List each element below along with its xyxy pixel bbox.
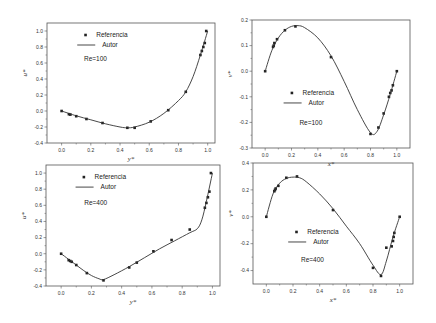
x-axis-label: y* [129, 298, 137, 306]
series-line-autor [265, 26, 397, 135]
plot-top-right-v-re100: 0.00.20.40.60.81.0-0.3-0.2-0.10.00.10.2x… [226, 17, 410, 168]
y-axis-label: u* [20, 212, 28, 220]
y-tick-label: -0.4 [33, 283, 42, 289]
legend: ReferenciaAutor [76, 173, 127, 190]
y-axis: -0.4-0.20.00.20.40.60.81.0 [34, 28, 47, 146]
y-axis: -0.4-0.20.00.20.4 [240, 160, 253, 274]
plot-frame [253, 163, 413, 284]
legend-label-referencia: Referencia [96, 31, 128, 38]
y-tick-label: 1.0 [36, 28, 43, 34]
y-tick-label: 0.0 [242, 214, 249, 220]
y-tick-label: -0.4 [240, 267, 249, 273]
y-tick-label: -0.4 [34, 140, 43, 146]
y-tick-label: 0.0 [241, 68, 248, 74]
x-tick-label: 0.6 [146, 147, 153, 153]
y-axis-label: v* [227, 210, 235, 217]
plot-bottom-left-u-re400: 0.00.20.40.60.81.0-0.4-0.20.00.20.40.60.… [20, 165, 220, 306]
x-tick-label: 0.0 [58, 290, 65, 296]
series-line-autor [62, 31, 208, 128]
series-markers-referencia [264, 25, 398, 135]
x-axis: 0.00.20.40.60.81.0 [58, 143, 211, 153]
legend-marker-icon [83, 176, 86, 179]
x-tick-label: 0.0 [263, 288, 270, 294]
x-tick-label: 0.4 [314, 152, 321, 158]
x-tick-label: 0.2 [88, 290, 95, 296]
x-tick-label: 0.8 [370, 288, 377, 294]
reynolds-annotation: Re=100 [84, 55, 107, 62]
x-tick-label: 0.6 [341, 152, 348, 158]
y-axis-label: u* [21, 69, 29, 77]
series-markers-referencia [60, 172, 212, 282]
y-tick-label: -0.3 [239, 145, 248, 151]
series-markers-referencia [265, 175, 401, 277]
x-tick-label: 0.2 [290, 288, 297, 294]
x-axis-label: x* [329, 296, 337, 304]
x-tick-label: 0.8 [179, 290, 186, 296]
x-tick-label: 1.0 [393, 152, 400, 158]
legend-label-autor: Autor [101, 183, 117, 190]
x-tick-label: 0.2 [288, 152, 295, 158]
data-point [170, 239, 173, 242]
y-tick-label: 0.6 [36, 60, 43, 66]
legend-marker-icon [291, 92, 294, 95]
legend-marker-icon [295, 231, 298, 234]
x-tick-label: 0.6 [343, 288, 350, 294]
x-axis: 0.00.20.40.60.81.0 [262, 148, 401, 158]
y-tick-label: 0.0 [36, 108, 43, 114]
y-axis: -0.3-0.2-0.10.00.10.2 [239, 17, 252, 151]
data-point [385, 246, 388, 249]
reynolds-annotation: Re=400 [84, 199, 107, 206]
y-tick-label: 0.8 [35, 186, 42, 192]
plot-frame [46, 165, 220, 286]
y-tick-label: 1.0 [35, 170, 42, 176]
y-tick-label: -0.2 [240, 240, 249, 246]
legend: ReferenciaAutor [288, 228, 339, 245]
reynolds-annotation: Re=400 [301, 256, 324, 263]
x-tick-label: 0.4 [118, 290, 125, 296]
legend-label-autor: Autor [309, 99, 325, 106]
y-tick-label: 0.6 [35, 202, 42, 208]
y-tick-label: 0.0 [35, 251, 42, 257]
y-tick-label: 0.2 [242, 187, 249, 193]
x-tick-label: 0.4 [316, 288, 323, 294]
y-tick-label: 0.8 [36, 44, 43, 50]
x-tick-label: 0.8 [175, 147, 182, 153]
legend: ReferenciaAutor [77, 31, 128, 48]
y-axis: -0.4-0.20.00.20.40.60.81.0 [33, 170, 46, 289]
x-axis-label: x* [327, 160, 335, 168]
x-tick-label: 1.0 [396, 288, 403, 294]
y-tick-label: 0.4 [242, 160, 249, 166]
y-tick-label: -0.1 [239, 94, 248, 100]
plot-frame [252, 20, 410, 148]
x-axis-label: y* [127, 155, 135, 163]
x-tick-label: 1.0 [209, 290, 216, 296]
x-tick-label: 0.0 [262, 152, 269, 158]
y-tick-label: 0.1 [241, 42, 248, 48]
x-tick-label: 0.0 [58, 147, 65, 153]
y-axis-label: v* [226, 70, 234, 77]
data-point [188, 228, 191, 231]
plot-frame [47, 23, 215, 143]
reynolds-annotation: Re=100 [299, 119, 322, 126]
x-axis: 0.00.20.40.60.81.0 [58, 286, 216, 296]
legend-marker-icon [84, 34, 87, 37]
x-tick-label: 0.2 [87, 147, 94, 153]
x-tick-label: 0.4 [117, 147, 124, 153]
legend-label-referencia: Referencia [95, 173, 127, 180]
figure: 0.00.20.40.60.81.0-0.4-0.20.00.20.40.60.… [0, 0, 436, 323]
legend: ReferenciaAutor [284, 89, 335, 106]
plot-bottom-right-v-re400: 0.00.20.40.60.81.0-0.4-0.20.00.20.4x*v*R… [227, 160, 413, 304]
x-tick-label: 0.8 [367, 152, 374, 158]
y-tick-label: -0.2 [33, 267, 42, 273]
x-axis: 0.00.20.40.60.81.0 [263, 284, 404, 294]
y-tick-label: 0.2 [36, 92, 43, 98]
x-tick-label: 0.6 [148, 290, 155, 296]
y-tick-label: 0.4 [36, 76, 43, 82]
legend-label-autor: Autor [313, 238, 329, 245]
legend-label-autor: Autor [102, 41, 118, 48]
y-tick-label: -0.2 [239, 119, 248, 125]
y-tick-label: 0.2 [241, 17, 248, 23]
legend-label-referencia: Referencia [303, 89, 335, 96]
y-tick-label: 0.2 [35, 234, 42, 240]
y-tick-label: -0.2 [34, 124, 43, 130]
